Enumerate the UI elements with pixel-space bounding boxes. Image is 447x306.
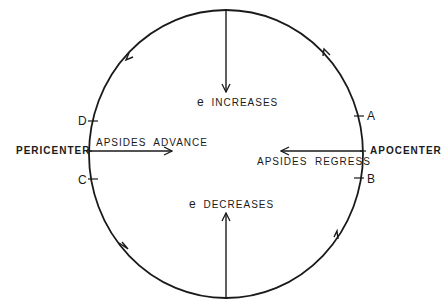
orbit-arrowhead-lower-right: [334, 231, 338, 239]
eccentricity-symbol: e: [197, 95, 204, 109]
apsides-regress-label: APSIDES REGRESS: [257, 157, 371, 167]
e-increases-label: e INCREASES: [197, 96, 278, 108]
increases-text: INCREASES: [211, 97, 278, 108]
point-c-label: C: [78, 174, 87, 186]
decreases-text: DECREASES: [203, 199, 274, 210]
point-b-label: B: [367, 173, 375, 185]
pericenter-label: PERICENTER: [16, 146, 90, 156]
e-decreases-label: e DECREASES: [189, 198, 274, 210]
apsides-advance-label: APSIDES ADVANCE: [96, 138, 208, 148]
point-d-label: D: [78, 115, 87, 127]
apocenter-label: APOCENTER: [370, 146, 442, 156]
point-a-label: A: [367, 110, 375, 122]
eccentricity-symbol: e: [189, 197, 196, 211]
